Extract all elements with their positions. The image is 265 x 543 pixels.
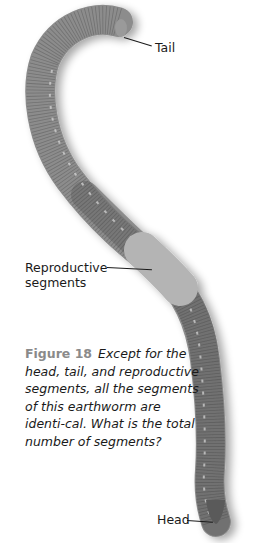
caption-text: Except for the head, tail, and reproduct… (25, 346, 199, 449)
tail-label: Tail (155, 40, 175, 55)
reproductive-label-line1: Reproductive (25, 260, 107, 275)
figure-number: Figure 18 (25, 346, 92, 361)
head-label: Head (157, 512, 190, 527)
reproductive-label-line2: segments (25, 275, 86, 290)
earthworm-figure: Tail Reproductive segments Figure 18Exce… (0, 0, 265, 543)
figure-caption: Figure 18Except for the head, tail, and … (25, 345, 200, 450)
worm-tail-tip (115, 19, 127, 37)
